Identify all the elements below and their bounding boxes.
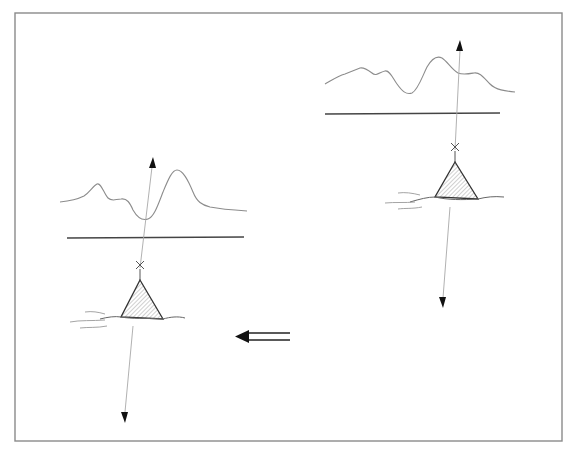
left-reference-line [67,237,244,238]
transition-double-arrow-icon [235,330,290,343]
left-profile-curve [60,170,247,220]
left-triangle-marker-icon [121,280,163,319]
figure-frame [15,13,562,441]
left-up-arrowhead-icon [149,157,156,168]
right-up-arrowhead-icon [456,40,463,51]
right-profile-curve [325,57,515,93]
right-triangle-marker-icon [435,162,478,199]
left-station-group [60,157,247,423]
right-axis-lower [443,207,450,298]
diagram-canvas [0,0,571,449]
left-x-mark-icon [136,261,144,280]
right-axis-upper [455,50,460,150]
right-station-group [325,40,515,308]
left-down-arrowhead-icon [121,412,128,423]
right-down-arrowhead-icon [439,297,446,308]
right-reference-line [325,113,500,114]
left-axis-lower [125,326,133,412]
